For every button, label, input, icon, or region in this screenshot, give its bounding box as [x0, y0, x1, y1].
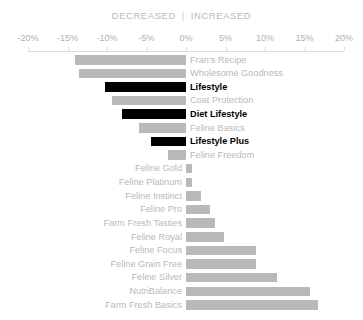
bar-row[interactable]: Feline Instinct	[0, 189, 363, 203]
bar-category-label: Lifestyle	[190, 81, 227, 93]
bar-category-label: Farm Fresh Tasties	[104, 217, 182, 229]
bar[interactable]	[75, 55, 186, 65]
bar-category-label: Feline Grain Free	[111, 258, 183, 270]
x-axis-label-3: -5%	[138, 33, 154, 43]
x-axis-tick-2	[107, 47, 108, 51]
x-axis-tick-1	[68, 47, 69, 51]
bar-category-label: Feline Instinct	[125, 190, 182, 202]
x-axis-tick-6	[265, 47, 266, 51]
bar-row[interactable]: Feline Pro	[0, 203, 363, 217]
header-increased-label: INCREASED	[191, 10, 251, 21]
bar[interactable]	[79, 69, 186, 79]
x-axis-label-6: 10%	[256, 33, 274, 43]
x-axis-label-1: -15%	[57, 33, 78, 43]
bar-category-label: NutriBalance	[129, 285, 182, 297]
bar[interactable]	[168, 150, 186, 160]
bar-row[interactable]: Wholesome Goodness	[0, 67, 363, 81]
bar-category-label: Feline Focus	[129, 244, 182, 256]
bar-row[interactable]: Farm Fresh Basics	[0, 298, 363, 312]
bar[interactable]	[151, 137, 186, 147]
bar-row[interactable]: Diet Lifestyle	[0, 107, 363, 121]
bar[interactable]	[112, 96, 186, 106]
x-axis-tick-3	[147, 47, 148, 51]
x-axis-tick-labels: -20%-15%-10%-5%0%5%10%15%20%	[0, 33, 363, 46]
x-axis-tick-8	[344, 47, 345, 51]
bar[interactable]	[139, 123, 186, 133]
bar-category-label: Feline Royal	[131, 231, 182, 243]
bar-row[interactable]: Coat Protection	[0, 94, 363, 108]
bar-row[interactable]: Feline Basics	[0, 121, 363, 135]
x-axis-tick-0	[28, 47, 29, 51]
bar-category-label: Feline Basics	[190, 122, 245, 134]
header-divider: |	[176, 10, 191, 21]
bar-category-label: Feline Pro	[140, 203, 182, 215]
chart-plot-area: Fran's RecipeWholesome GoodnessLifestyle…	[0, 53, 363, 315]
x-axis-label-5: 5%	[219, 33, 232, 43]
x-axis-tick-5	[226, 47, 227, 51]
bar-category-label: Diet Lifestyle	[190, 108, 247, 120]
bar-category-label: Lifestyle Plus	[190, 135, 249, 147]
bar-row[interactable]: Feline Freedom	[0, 148, 363, 162]
bar[interactable]	[186, 205, 210, 215]
x-axis-label-8: 20%	[335, 33, 353, 43]
diverging-bar-chart: DECREASED|INCREASED -20%-15%-10%-5%0%5%1…	[0, 0, 363, 320]
x-axis-tick-4	[186, 47, 187, 51]
bar-category-label: Feline Silver	[131, 271, 182, 283]
x-axis-label-7: 15%	[295, 33, 313, 43]
bar-row[interactable]: NutriBalance	[0, 285, 363, 299]
bar-category-label: Wholesome Goodness	[190, 67, 283, 79]
bar[interactable]	[186, 246, 256, 256]
bar-row[interactable]: Feline Gold	[0, 162, 363, 176]
x-axis-tick-7	[305, 47, 306, 51]
bar-row[interactable]: Farm Fresh Tasties	[0, 216, 363, 230]
bar-row[interactable]: Lifestyle	[0, 80, 363, 94]
bar-row[interactable]: Feline Platinum	[0, 176, 363, 190]
bar-category-label: Farm Fresh Basics	[105, 299, 182, 311]
bar[interactable]	[186, 218, 215, 228]
bar-category-label: Coat Protection	[190, 94, 253, 106]
bar-row[interactable]: Feline Grain Free	[0, 257, 363, 271]
header-decreased-label: DECREASED	[112, 10, 176, 21]
chart-header: DECREASED|INCREASED	[0, 10, 363, 21]
bar-category-label: Feline Platinum	[119, 176, 182, 188]
bar-category-label: Feline Gold	[135, 162, 182, 174]
bar[interactable]	[186, 287, 310, 297]
bar[interactable]	[122, 109, 186, 119]
bar-row[interactable]: Feline Royal	[0, 230, 363, 244]
bar-row[interactable]: Feline Focus	[0, 244, 363, 258]
bar-category-label: Feline Freedom	[190, 149, 254, 161]
x-axis-label-0: -20%	[17, 33, 38, 43]
bar[interactable]	[186, 232, 224, 242]
bar-row[interactable]: Lifestyle Plus	[0, 135, 363, 149]
bar[interactable]	[186, 164, 192, 174]
x-axis-line	[28, 51, 344, 52]
bar-row[interactable]: Fran's Recipe	[0, 53, 363, 67]
bar[interactable]	[186, 273, 277, 283]
bar-row[interactable]: Feline Silver	[0, 271, 363, 285]
bar-category-label: Fran's Recipe	[190, 54, 246, 66]
bar[interactable]	[186, 178, 192, 188]
bar[interactable]	[186, 300, 318, 310]
bar[interactable]	[105, 82, 186, 92]
bar[interactable]	[186, 259, 256, 269]
bar[interactable]	[186, 191, 201, 201]
x-axis-label-4: 0%	[179, 33, 192, 43]
x-axis-label-2: -10%	[96, 33, 117, 43]
